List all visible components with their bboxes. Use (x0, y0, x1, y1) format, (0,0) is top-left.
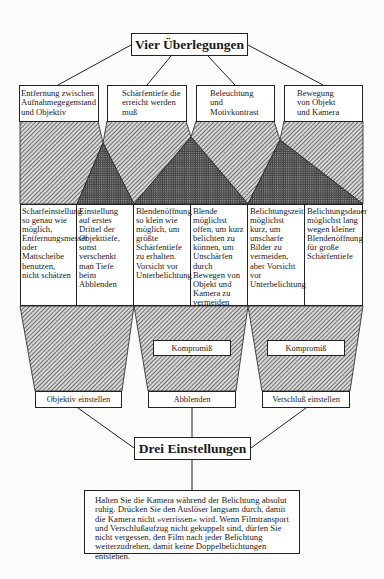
column-text: Einstellung auf erstes Drittel der Objek… (79, 206, 120, 289)
note-text: Halten Sie die Kamera während der Belich… (95, 495, 289, 561)
consideration-label: Bewegung von Objekt und Kamera (297, 88, 339, 117)
column-text: Blende möglichst offen, um kurz belichte… (193, 206, 244, 307)
consideration-box-lighting: Beleuchtung und Motivkontrast (196, 85, 275, 122)
column-text: Belichtungszeit möglichst kurz, um unsch… (250, 206, 306, 289)
setting-label: Objektiv einstellen (47, 395, 111, 404)
setting-label: Abblenden (174, 395, 211, 404)
bottom-title: Drei Einstellungen (139, 441, 246, 457)
column-small-aperture: Blendenöffnung so klein wie möglich, um … (134, 204, 191, 306)
column-text: Belichtungsdauer möglichst lang wegen kl… (307, 206, 367, 261)
setting-box-focus: Objektiv einstellen (35, 391, 122, 408)
consideration-box-motion: Bewegung von Objekt und Kamera (284, 85, 363, 122)
column-focus-third: Einstellung auf erstes Drittel der Objek… (77, 204, 134, 306)
setting-box-aperture: Abblenden (148, 391, 236, 408)
column-short-exposure: Belichtungszeit möglichst kurz, um unsch… (248, 204, 305, 306)
compromise-box-shutter: Kompromiß (267, 340, 345, 356)
consideration-box-distance: Entfernung zwischen Aufnahmegegenstand u… (19, 85, 99, 122)
setting-label: Verschluß einstellen (272, 395, 340, 404)
compromise-box-aperture: Kompromiß (153, 340, 231, 356)
setting-box-shutter: Verschluß einstellen (262, 391, 350, 408)
compromise-label: Kompromiß (172, 344, 213, 353)
upper-hatched-band (20, 121, 363, 204)
consideration-label: Schärfentiefe die erreicht werden muß (122, 88, 180, 117)
note-box: Halten Sie die Kamera während der Belich… (84, 490, 300, 554)
column-long-exposure: Belichtungsdauer möglichst lang wegen kl… (305, 204, 363, 306)
column-focus: Scharfeinstellung so genau wie möglich, … (20, 204, 77, 306)
compromise-label: Kompromiß (286, 344, 327, 353)
consideration-label: Entfernung zwischen Aufnahmegegenstand u… (21, 88, 96, 117)
top-title-box: Vier Überlegungen (131, 33, 248, 56)
consideration-box-depth-of-field: Schärfentiefe die erreicht werden muß (107, 85, 187, 122)
column-open-aperture: Blende möglichst offen, um kurz belichte… (191, 204, 248, 306)
bottom-title-box: Drei Einstellungen (134, 437, 251, 460)
consideration-label: Beleuchtung und Motivkontrast (210, 88, 259, 117)
top-title: Vier Überlegungen (135, 37, 244, 53)
column-text: Blendenöffnung so klein wie möglich, um … (136, 206, 192, 280)
